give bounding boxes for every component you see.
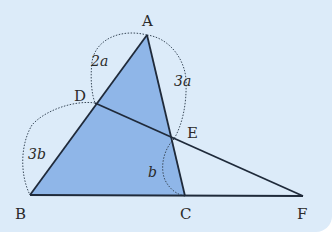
geometry-diagram: A B C D E F 2a 3a 3b b xyxy=(0,0,332,239)
label-length-ae: 3a xyxy=(174,73,191,89)
label-point-f: F xyxy=(297,205,307,223)
label-length-db: 3b xyxy=(28,146,46,162)
label-point-d: D xyxy=(74,87,86,105)
label-point-b: B xyxy=(15,205,26,223)
label-point-a: A xyxy=(141,12,153,30)
label-point-e: E xyxy=(187,124,198,142)
label-point-c: C xyxy=(180,205,191,223)
label-length-ad: 2a xyxy=(90,53,108,69)
line-bf xyxy=(30,195,303,196)
label-length-ec: b xyxy=(148,164,157,180)
